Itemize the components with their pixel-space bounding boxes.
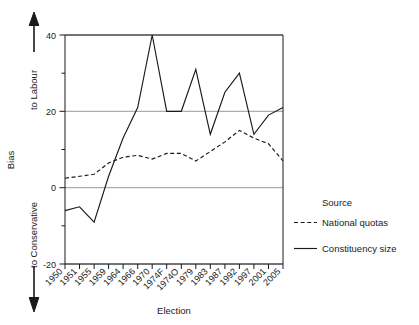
legend-title: Source [322,197,352,208]
legend: Source National quotas Constituency size [294,197,396,254]
y-tick-label-20: 20 [46,107,56,117]
up-arrow-icon [29,12,39,52]
y-axis-title: Bias [5,151,16,170]
y-tick-labels: 40 20 0 -20 [43,31,56,270]
y-tick-label-40: 40 [46,31,56,41]
legend-label-national-quotas: National quotas [322,217,388,228]
direction-label-to-conservative: to Conservative [28,202,39,268]
legend-label-constituency-size: Constituency size [322,243,396,254]
y-axis-minor-ticks [62,73,66,226]
direction-label-to-labour: to Labour [28,70,39,110]
bias-by-election-line-chart: 40 20 0 -20 1950 1951 [0,0,419,325]
y-tick-label-minus-20: -20 [43,260,56,270]
chart-figure: 40 20 0 -20 1950 1951 [0,0,419,325]
x-axis-title: Election [157,305,191,316]
y-tick-label-0: 0 [51,183,56,193]
down-arrow-icon [29,266,39,312]
x-tick-label-2005: 2005 [261,266,282,287]
plot-area-background [65,35,283,264]
x-tick-labels: 1950 1951 1955 1959 1964 1966 1970 1974F… [43,266,282,293]
